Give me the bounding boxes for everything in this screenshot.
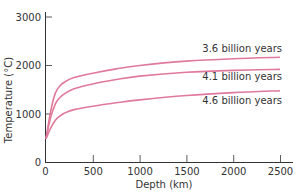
series-label-3-6-billion: 3.6 billion years bbox=[202, 43, 282, 54]
x-tick-label: 1500 bbox=[174, 166, 199, 177]
y-ticks: 0100020003000 bbox=[16, 12, 52, 169]
x-axis-title: Depth (km) bbox=[136, 179, 193, 190]
series-label-4-6-billion: 4.6 billion years bbox=[202, 95, 282, 106]
x-tick-label: 2500 bbox=[268, 166, 293, 177]
x-tick-label: 500 bbox=[84, 166, 103, 177]
x-tick-label: 2000 bbox=[221, 166, 246, 177]
y-tick-label: 1000 bbox=[16, 109, 41, 120]
x-tick-label: 0 bbox=[42, 166, 48, 177]
y-axis-title: Temperature (°C) bbox=[3, 57, 14, 144]
temperature-depth-chart: 0100020003000 05001000150020002500 3.6 b… bbox=[0, 0, 298, 194]
y-tick-label: 0 bbox=[35, 157, 41, 168]
y-tick-label: 2000 bbox=[16, 60, 41, 71]
x-ticks: 05001000150020002500 bbox=[42, 155, 293, 177]
x-tick-label: 1000 bbox=[127, 166, 152, 177]
axes bbox=[45, 12, 293, 163]
series-label-4-1-billion: 4.1 billion years bbox=[202, 71, 282, 82]
y-tick-label: 3000 bbox=[16, 12, 41, 23]
